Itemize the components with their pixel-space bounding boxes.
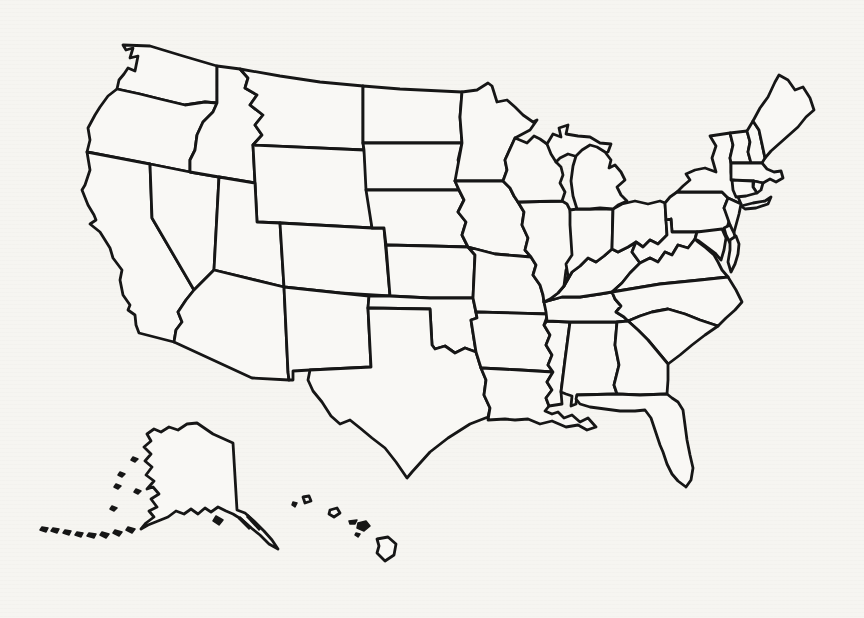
- contiguous-us: [82, 45, 814, 487]
- aleutian-island: [40, 527, 48, 532]
- island-kauai: [303, 496, 311, 503]
- island-kahoolawe: [355, 533, 360, 537]
- kodiak-island: [213, 516, 223, 525]
- state-maine: [753, 75, 814, 158]
- bering-sea-island: [114, 484, 121, 489]
- hawaii-inset: [292, 496, 396, 561]
- aleutian-island: [126, 527, 135, 533]
- island-maui: [357, 521, 370, 531]
- delmarva-peninsula: [728, 236, 739, 272]
- state-wyoming: [253, 145, 372, 228]
- island-hawaii: [377, 537, 396, 561]
- island-molokai: [349, 520, 357, 524]
- bering-sea-island: [110, 506, 117, 511]
- aleutian-island: [113, 530, 122, 536]
- state-michigan-lower-peninsula: [571, 145, 627, 209]
- bering-sea-island: [134, 489, 141, 494]
- state-colorado: [280, 223, 390, 296]
- state-montana: [240, 69, 364, 150]
- aleutian-island: [75, 532, 83, 537]
- state-kansas: [386, 245, 475, 298]
- state-new-mexico: [284, 287, 371, 380]
- scanned-page: [0, 0, 864, 618]
- state-north-dakota: [363, 86, 462, 143]
- state-arkansas: [471, 312, 553, 372]
- aleutian-island: [87, 533, 96, 538]
- state-connecticut: [732, 180, 757, 197]
- state-south-dakota: [363, 143, 462, 190]
- aleutian-island: [63, 530, 71, 535]
- us-states-outline-map: [0, 0, 864, 618]
- alaska-inset: [40, 423, 278, 549]
- state-pennsylvania: [665, 192, 730, 232]
- long-island: [741, 197, 771, 209]
- aleutian-island: [51, 528, 59, 533]
- island-niihau: [292, 502, 297, 507]
- bering-sea-island: [131, 457, 138, 462]
- aleutian-island: [100, 532, 109, 538]
- state-alaska: [141, 423, 278, 549]
- state-florida: [576, 394, 693, 487]
- island-oahu: [329, 508, 340, 517]
- bering-sea-island: [118, 472, 125, 477]
